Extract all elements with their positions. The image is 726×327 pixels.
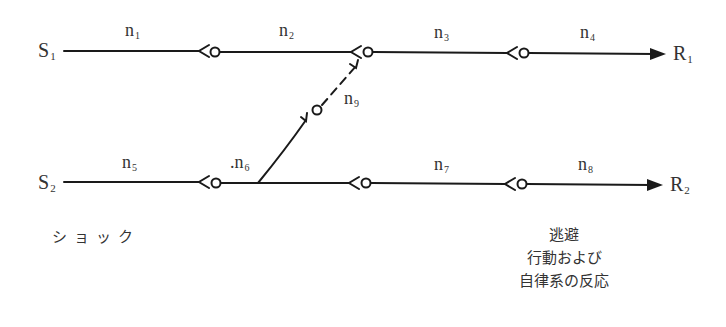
input-S2: S2 [38,172,56,194]
neuron-label-n7: n7 [434,155,449,175]
neuron-label-n6: .n6 [230,153,250,173]
synapse-knob-n6 [212,179,221,188]
stimulus-caption: ショック [52,226,140,249]
neuron-label-n4: n4 [580,23,595,43]
arrowhead-R2 [647,179,663,191]
synapse-n3-n4 [507,47,517,59]
axon-n3 [373,52,508,53]
response-caption-line1: 逃避 [504,224,624,247]
output-R2: R2 [670,174,690,196]
arrowhead-R1 [650,48,666,60]
neuron-label-n9: n9 [344,89,359,109]
synapse-knob-n9 [313,106,322,115]
input-S1: S1 [38,40,56,62]
axon-n7 [371,183,506,184]
axon-collateral-n6 [258,120,306,183]
response-caption: 逃避 行動および 自律系の反応 [504,224,624,293]
synapse-n7-n8 [505,178,515,190]
axon-n4 [529,53,655,54]
synapse-n6-n7 [349,177,359,189]
synapse-n1-n2 [199,45,209,57]
response-caption-line3: 自律系の反応 [504,270,624,293]
synapse-n5-n6 [199,176,209,188]
synapse-knob-n7 [362,179,371,188]
neuron-label-n2: n2 [279,21,294,41]
synapse-knob-n3 [364,48,373,57]
neuron-label-n3: n3 [434,23,449,43]
synapse-knob-n8 [518,180,527,189]
synapse-n9-n2n3 [350,60,358,68]
response-caption-line2: 行動および [504,247,624,270]
neuron-label-n1: n1 [125,21,140,41]
synapse-n2-n3 [351,46,361,58]
neuron-label-n5: n5 [122,153,137,173]
axon-n8 [527,184,652,185]
synapse-knob-n4 [520,49,529,58]
synapse-n6-n9 [301,113,307,121]
output-R1: R1 [673,43,693,65]
neuron-label-n8: n8 [578,155,593,175]
synapse-knob-n2 [211,48,220,57]
